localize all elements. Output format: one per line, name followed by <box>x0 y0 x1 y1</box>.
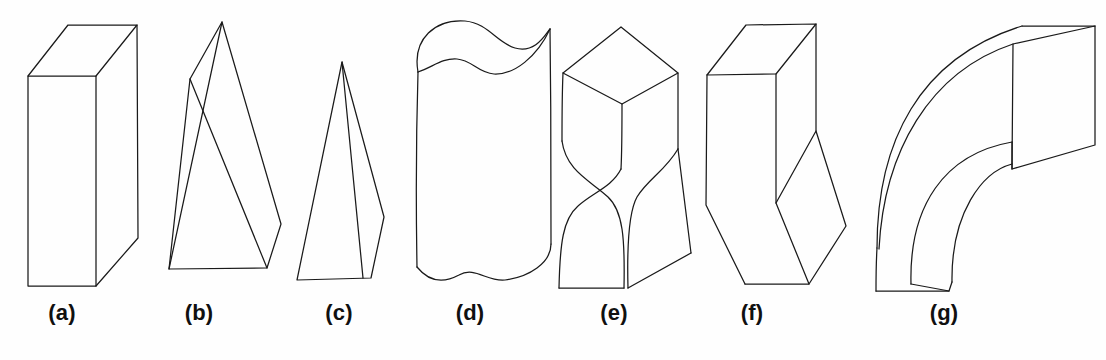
caption-f: (f) <box>712 300 792 326</box>
shape-f-top-face <box>707 24 816 75</box>
shape-e-twist-edge-center <box>559 169 621 288</box>
shape-d-left-silhouette <box>416 72 418 267</box>
shape-d-bottom-curve <box>417 244 551 280</box>
caption-row: (a) (b) (c) (d) (e) (f) (g) <box>0 300 1106 360</box>
shape-g-curved-elbow <box>876 26 1095 291</box>
figure-container: (a) (b) (c) (d) (e) (f) (g) <box>0 0 1106 360</box>
caption-d: (d) <box>430 300 510 326</box>
shape-a-front-face-edge <box>28 76 96 286</box>
caption-c: (c) <box>299 300 379 326</box>
shape-c-center-ridge <box>342 62 363 278</box>
caption-g: (g) <box>904 300 984 326</box>
shape-e-twist-edge-right-front <box>628 149 678 288</box>
shape-e-right-rear-silhouette <box>678 149 691 253</box>
shape-g-outer-top-arc <box>877 26 1022 248</box>
shape-d-top-face-back-curve <box>417 21 550 72</box>
shape-g-bottom-inner-edge <box>911 284 949 291</box>
shape-a-top-face-edge <box>28 25 137 76</box>
shape-b-slanted-wedge <box>169 22 281 269</box>
shape-d-wavy-extrusion <box>416 21 551 280</box>
shape-f-front-left-edge <box>706 75 745 284</box>
caption-b: (b) <box>159 300 239 326</box>
shape-e-center-vertical-upper <box>621 104 622 169</box>
caption-e: (e) <box>574 300 654 326</box>
shape-f-bent-box <box>706 24 846 284</box>
shape-g-left-lower-silhouette <box>876 248 877 291</box>
shape-e-left-vertical-upper <box>562 73 563 141</box>
shape-g-inner-arc-inner <box>952 164 1012 282</box>
shape-e-bottom-right-edge <box>628 253 691 288</box>
shape-d-top-face-front-curve <box>418 29 550 74</box>
shape-a-right-face-edge <box>96 25 138 286</box>
caption-a: (a) <box>22 300 102 326</box>
shape-a-rectangular-box <box>28 25 138 286</box>
shape-b-left-edge <box>169 79 190 269</box>
shape-c-outline <box>297 62 384 280</box>
shape-g-inner-arc-outer <box>911 142 1012 284</box>
shape-d-right-silhouette <box>550 29 551 244</box>
shape-c-tall-pyramid <box>297 62 384 280</box>
shape-e-top-face <box>563 27 678 104</box>
shape-f-notch-facet <box>776 131 846 284</box>
shape-e-twisted-prism <box>559 27 691 288</box>
shape-g-end-face <box>1012 26 1095 169</box>
shape-b-outline <box>169 22 281 269</box>
shape-b-front-ridge <box>190 22 267 268</box>
